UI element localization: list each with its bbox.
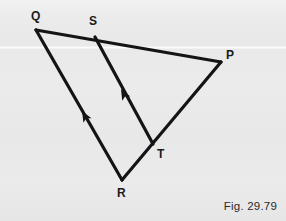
vertex-label-s: S <box>89 15 97 27</box>
figure-container: Q S P T R Fig. 29.79 <box>0 0 286 221</box>
segment-QP <box>36 30 221 62</box>
segment-ST <box>95 37 153 144</box>
segments-group <box>36 30 221 180</box>
vertex-label-t: T <box>157 148 164 160</box>
figure-caption: Fig. 29.79 <box>224 200 277 212</box>
vertex-label-r: R <box>117 187 126 199</box>
vertex-label-q: Q <box>31 10 40 22</box>
segment-RP <box>122 62 221 180</box>
geometry-diagram <box>0 0 286 221</box>
parallel-marks-group <box>78 87 130 123</box>
vertex-label-p: P <box>226 49 234 61</box>
segment-QR <box>36 30 122 180</box>
